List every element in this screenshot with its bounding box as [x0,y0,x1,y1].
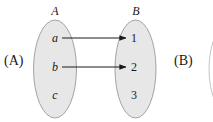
set-name-b: B [132,5,139,17]
set-name-a: A [51,5,58,17]
panel-label-a: (A) [4,54,23,68]
set-a-element-a: a [52,32,58,44]
panel-b-set-ellipse-cropped [209,20,213,118]
set-b-element-3: 3 [131,89,137,101]
mapping-diagram-figure: (A) (B) A B a b c 1 2 3 [0,0,213,122]
panel-label-b: (B) [174,54,193,68]
set-a-element-c: c [52,89,57,101]
set-a-element-b: b [52,61,58,73]
set-b-element-2: 2 [131,61,137,73]
set-b-element-1: 1 [131,32,137,44]
